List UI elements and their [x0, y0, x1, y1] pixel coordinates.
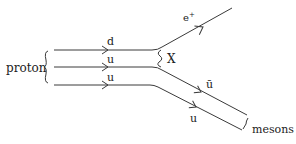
proton-label: proton	[6, 61, 47, 75]
mesons-bracket	[243, 118, 248, 129]
x-boson-label: X	[167, 52, 176, 66]
mesons-label: mesons	[252, 123, 294, 136]
u-middle-label: u	[107, 53, 114, 66]
d-label: d	[107, 35, 114, 48]
positron-arrow-icon	[194, 23, 205, 35]
u-quark-middle-line	[54, 67, 247, 115]
feynman-diagram: proton d u u X e+ ū u mesons	[0, 0, 296, 144]
u-out-label: u	[190, 112, 197, 125]
positron-label: e+	[183, 11, 195, 23]
d-quark-line	[54, 8, 232, 50]
u-quark-bottom-line	[54, 85, 242, 130]
x-boson-line	[158, 50, 162, 67]
antiquark-label: ū	[206, 78, 213, 91]
u-bottom-label: u	[107, 71, 114, 84]
